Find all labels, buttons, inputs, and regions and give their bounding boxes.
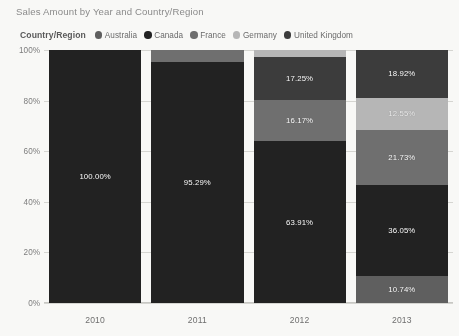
bar-stack: 100.00%	[49, 50, 141, 303]
bar-segment[interactable]	[254, 50, 346, 57]
y-axis-tick: 0%	[28, 299, 40, 308]
x-axis-tick: 2013	[351, 306, 453, 330]
bar-segment[interactable]: 36.05%	[356, 185, 448, 276]
bar-segment-label: 16.17%	[286, 116, 313, 125]
y-axis-tick: 80%	[24, 96, 40, 105]
bar-segment[interactable]: 21.73%	[356, 130, 448, 185]
bar-segment-label: 12.55%	[388, 109, 415, 118]
bar-segment[interactable]: 18.92%	[356, 50, 448, 98]
bar-segment[interactable]: 17.25%	[254, 57, 346, 101]
bar-segment[interactable]: 12.55%	[356, 98, 448, 130]
bar-segment[interactable]: 100.00%	[49, 50, 141, 303]
bar-stack: 18.92%12.55%21.73%36.05%10.74%	[356, 50, 448, 303]
x-axis-tick: 2012	[249, 306, 351, 330]
bar-column-2013: 18.92%12.55%21.73%36.05%10.74%	[351, 50, 453, 303]
plot-wrapper: 100%80%60%40%20%0% 100.00%95.29%17.25%16…	[0, 0, 459, 336]
bar-segment[interactable]: 63.91%	[254, 141, 346, 303]
bar-stack: 17.25%16.17%63.91%	[254, 50, 346, 303]
bar-group: 100.00%95.29%17.25%16.17%63.91%18.92%12.…	[44, 50, 453, 303]
bar-segment-label: 10.74%	[388, 285, 415, 294]
y-axis: 100%80%60%40%20%0%	[10, 44, 40, 306]
bar-segment[interactable]: 16.17%	[254, 100, 346, 141]
x-axis: 2010201120122013	[44, 306, 453, 330]
bar-segment-label: 100.00%	[79, 172, 110, 181]
plot-area: 100.00%95.29%17.25%16.17%63.91%18.92%12.…	[44, 50, 453, 303]
bar-column-2010: 100.00%	[44, 50, 146, 303]
bar-segment-label: 36.05%	[388, 226, 415, 235]
x-axis-tick: 2011	[146, 306, 248, 330]
y-axis-tick: 100%	[19, 46, 40, 55]
gridline	[44, 303, 453, 304]
bar-segment[interactable]: 10.74%	[356, 276, 448, 303]
bar-column-2012: 17.25%16.17%63.91%	[249, 50, 351, 303]
bar-segment-label: 17.25%	[286, 74, 313, 83]
bar-segment-label: 63.91%	[286, 218, 313, 227]
x-axis-tick: 2010	[44, 306, 146, 330]
bar-segment[interactable]	[151, 50, 243, 62]
bar-segment-label: 95.29%	[184, 178, 211, 187]
bar-segment[interactable]: 95.29%	[151, 62, 243, 303]
bar-segment-label: 21.73%	[388, 153, 415, 162]
bar-column-2011: 95.29%	[146, 50, 248, 303]
y-axis-tick: 20%	[24, 248, 40, 257]
y-axis-tick: 40%	[24, 197, 40, 206]
bar-stack: 95.29%	[151, 50, 243, 303]
bar-segment-label: 18.92%	[388, 69, 415, 78]
stacked-bar-chart: Sales Amount by Year and Country/Region …	[0, 0, 459, 336]
y-axis-tick: 60%	[24, 147, 40, 156]
